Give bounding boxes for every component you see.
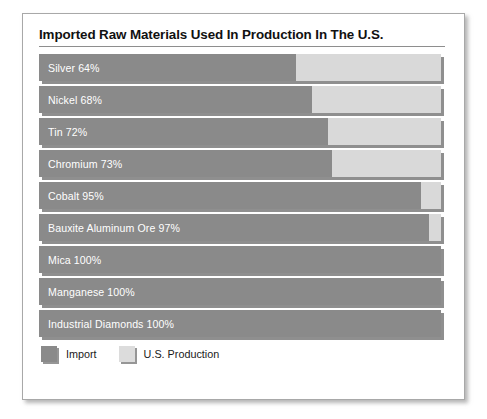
bar-row: Tin 72% bbox=[39, 118, 441, 145]
bar-row: Silver 64% bbox=[39, 54, 441, 81]
chart-card: Imported Raw Materials Used In Productio… bbox=[22, 13, 465, 400]
bar-label: Tin 72% bbox=[48, 118, 87, 145]
legend-swatch-usprod bbox=[119, 346, 135, 362]
chart-title: Imported Raw Materials Used In Productio… bbox=[39, 27, 452, 46]
legend-label: U.S. Production bbox=[144, 348, 220, 360]
legend-item: U.S. Production bbox=[119, 346, 220, 362]
bar-row: Manganese 100% bbox=[39, 278, 441, 305]
chart-legend: ImportU.S. Production bbox=[39, 346, 452, 362]
bar-label: Industrial Diamonds 100% bbox=[48, 310, 174, 337]
bar-label: Chromium 73% bbox=[48, 150, 122, 177]
legend-swatch-import bbox=[41, 346, 57, 362]
bar-label: Bauxite Aluminum Ore 97% bbox=[48, 214, 180, 241]
bar-label: Mica 100% bbox=[48, 246, 101, 273]
legend-label: Import bbox=[66, 348, 97, 360]
bar-row: Nickel 68% bbox=[39, 86, 441, 113]
bar-track-us-production bbox=[39, 118, 441, 145]
title-divider bbox=[39, 46, 445, 47]
bar-label: Cobalt 95% bbox=[48, 182, 104, 209]
bar-row: Mica 100% bbox=[39, 246, 441, 273]
bar-label: Nickel 68% bbox=[48, 86, 102, 113]
bar-row: Cobalt 95% bbox=[39, 182, 441, 209]
bar-label: Silver 64% bbox=[48, 54, 100, 81]
bar-row: Industrial Diamonds 100% bbox=[39, 310, 441, 337]
bar-label: Manganese 100% bbox=[48, 278, 135, 305]
bar-row: Chromium 73% bbox=[39, 150, 441, 177]
bar-row: Bauxite Aluminum Ore 97% bbox=[39, 214, 441, 241]
legend-item: Import bbox=[41, 346, 97, 362]
chart-content: Imported Raw Materials Used In Productio… bbox=[39, 27, 452, 389]
bar-list: Silver 64%Nickel 68%Tin 72%Chromium 73%C… bbox=[39, 54, 445, 337]
